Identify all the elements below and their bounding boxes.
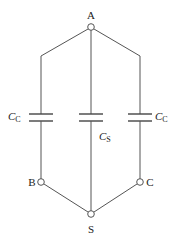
label-cap-center: CS bbox=[99, 130, 111, 144]
node-b bbox=[38, 179, 45, 186]
capacitor-left bbox=[29, 114, 53, 121]
label-a: A bbox=[87, 9, 95, 21]
circuit-diagram: A B C S CC CS CC bbox=[0, 0, 176, 241]
label-b: B bbox=[28, 176, 35, 188]
wire-b-to-s bbox=[44, 184, 88, 212]
label-cap-right: CC bbox=[155, 110, 168, 124]
wire-a-to-right-capacitor bbox=[94, 29, 140, 114]
wire-c-to-s bbox=[94, 184, 137, 212]
label-c: C bbox=[146, 176, 153, 188]
node-a bbox=[88, 24, 95, 31]
node-s bbox=[88, 211, 95, 218]
label-s: S bbox=[88, 223, 94, 235]
capacitor-center bbox=[79, 114, 103, 121]
label-cap-left: CC bbox=[8, 110, 21, 124]
capacitor-right bbox=[128, 114, 152, 121]
wire-a-to-left-capacitor bbox=[41, 29, 88, 114]
node-c bbox=[137, 179, 144, 186]
